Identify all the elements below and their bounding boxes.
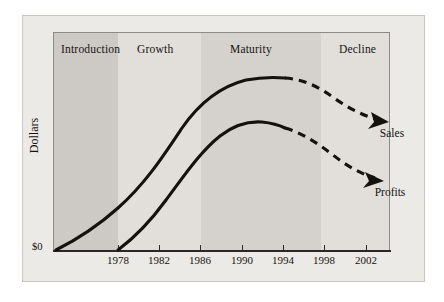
product-life-cycle-chart: Introduction Growth Maturity Decline 197… bbox=[0, 0, 444, 302]
x-tick-label-2002: 2002 bbox=[355, 254, 377, 266]
x-tick-1978 bbox=[118, 245, 119, 251]
x-tick-1994 bbox=[283, 245, 284, 251]
x-tick-label-1986: 1986 bbox=[189, 254, 211, 266]
x-tick-label-1994: 1994 bbox=[272, 254, 294, 266]
y-axis-zero-label: $0 bbox=[32, 241, 43, 252]
x-tick-label-1990: 1990 bbox=[231, 254, 253, 266]
x-tick-2002 bbox=[366, 245, 367, 251]
stage-label-introduction: Introduction bbox=[61, 43, 120, 55]
stage-label-maturity: Maturity bbox=[230, 43, 272, 55]
y-axis-title: Dollars bbox=[27, 96, 42, 176]
series-label-profits: Profits bbox=[375, 186, 406, 198]
x-axis-line bbox=[53, 250, 391, 252]
x-tick-1986 bbox=[200, 245, 201, 251]
stage-band-maturity bbox=[201, 33, 321, 251]
x-tick-1998 bbox=[324, 245, 325, 251]
stage-band-growth bbox=[118, 33, 201, 251]
x-tick-1990 bbox=[242, 245, 243, 251]
stage-band-decline bbox=[321, 33, 390, 251]
x-tick-label-1978: 1978 bbox=[107, 254, 129, 266]
x-tick-label-1998: 1998 bbox=[313, 254, 335, 266]
plot-area: Introduction Growth Maturity Decline bbox=[53, 32, 390, 251]
stage-band-introduction bbox=[54, 33, 118, 251]
series-label-sales: Sales bbox=[380, 127, 404, 139]
x-tick-label-1982: 1982 bbox=[148, 254, 170, 266]
x-tick-1982 bbox=[159, 245, 160, 251]
stage-label-decline: Decline bbox=[339, 43, 376, 55]
stage-label-growth: Growth bbox=[137, 43, 173, 55]
